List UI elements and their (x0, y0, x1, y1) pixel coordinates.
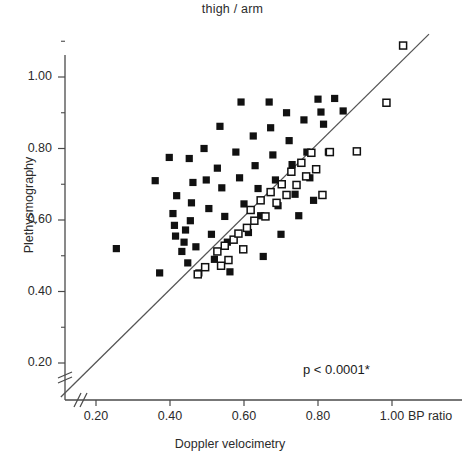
data-point-filled (331, 95, 338, 102)
data-point-filled (216, 123, 223, 130)
x-tick-label-3: 0.80 (296, 409, 340, 423)
data-point-filled (300, 116, 307, 123)
data-point-open (247, 206, 254, 213)
data-point-filled (283, 109, 290, 116)
data-point-open (214, 248, 221, 255)
scatter-plot-figure: thigh / arm Plethysmography Doppler velo… (0, 0, 465, 463)
data-point-open (257, 197, 264, 204)
data-point-filled (226, 268, 233, 275)
data-point-filled (286, 137, 293, 144)
plot-canvas (0, 0, 465, 463)
data-point-open (293, 181, 300, 188)
data-point-open (353, 148, 360, 155)
data-point-open (283, 191, 290, 198)
data-point-filled (250, 132, 257, 139)
y-tick-label-0: 0.20 (8, 355, 52, 369)
data-point-filled (320, 121, 327, 128)
data-point-open (278, 181, 285, 188)
data-point-filled (171, 222, 178, 229)
data-point-filled (260, 253, 267, 260)
data-point-open (221, 242, 228, 249)
x-tick-label-2: 0.60 (222, 409, 266, 423)
data-point-filled (267, 124, 274, 131)
data-point-filled (317, 108, 324, 115)
data-point-filled (203, 176, 210, 183)
data-point-filled (269, 151, 276, 158)
data-point-filled (236, 174, 243, 181)
data-point-open (303, 173, 310, 180)
data-point-filled (192, 243, 199, 250)
data-point-open (235, 230, 242, 237)
data-point-open (243, 224, 250, 231)
data-point-open (288, 168, 295, 175)
y-tick-label-1: 0.40 (8, 284, 52, 298)
data-point-filled (221, 213, 228, 220)
data-point-filled (289, 161, 296, 168)
data-point-filled (310, 197, 317, 204)
data-point-filled (156, 269, 163, 276)
data-point-open (218, 262, 225, 269)
data-point-open (326, 149, 333, 156)
data-point-open (240, 246, 247, 253)
data-point-filled (340, 107, 347, 114)
data-point-open (400, 42, 407, 49)
data-point-filled (205, 205, 212, 212)
data-point-filled (189, 179, 196, 186)
data-point-filled (254, 185, 261, 192)
data-point-filled (277, 231, 284, 238)
x-tick-label-1: 0.40 (148, 409, 192, 423)
data-point-open (308, 149, 315, 156)
data-point-open (262, 213, 269, 220)
data-point-open (225, 257, 232, 264)
data-point-open (298, 159, 305, 166)
data-point-filled (182, 226, 189, 233)
y-tick-label-4: 1.00 (8, 69, 52, 83)
data-point-open (194, 271, 201, 278)
data-point-filled (218, 184, 225, 191)
data-point-filled (187, 217, 194, 224)
data-point-filled (200, 145, 207, 152)
data-point-filled (178, 248, 185, 255)
data-point-filled (252, 162, 259, 169)
data-point-open (202, 264, 209, 271)
y-tick-label-2: 0.60 (8, 212, 52, 226)
data-point-filled (237, 98, 244, 105)
data-point-filled (172, 232, 179, 239)
data-point-filled (214, 165, 221, 172)
data-point-filled (266, 98, 273, 105)
data-point-filled (113, 245, 120, 252)
data-point-filled (152, 177, 159, 184)
data-point-filled (173, 192, 180, 199)
data-point-open (251, 217, 258, 224)
data-point-open (273, 199, 280, 206)
data-point-filled (184, 259, 191, 266)
data-point-filled (314, 96, 321, 103)
data-point-filled (169, 210, 176, 217)
x-tick-label-0: 0.20 (74, 409, 118, 423)
data-point-filled (232, 148, 239, 155)
data-point-open (267, 189, 274, 196)
data-point-filled (186, 155, 193, 162)
identity-line (61, 34, 429, 397)
data-point-filled (188, 199, 195, 206)
data-point-open (383, 99, 390, 106)
data-point-open (313, 166, 320, 173)
data-point-open (319, 191, 326, 198)
data-point-filled (166, 154, 173, 161)
data-point-filled (208, 231, 215, 238)
data-point-filled (180, 239, 187, 246)
y-tick-label-3: 0.80 (8, 141, 52, 155)
data-point-filled (291, 191, 298, 198)
data-point-filled (295, 212, 302, 219)
x-tick-label-4: 1.00 (370, 409, 414, 423)
